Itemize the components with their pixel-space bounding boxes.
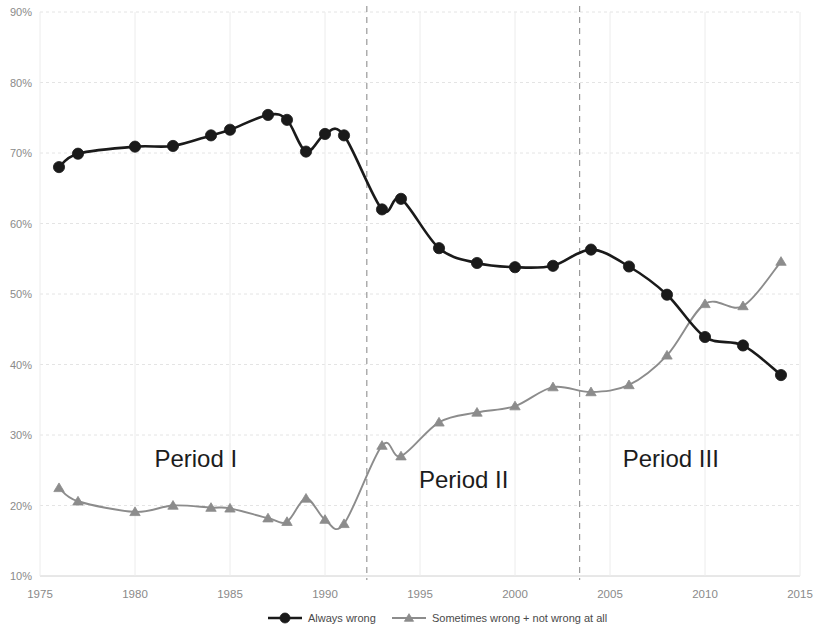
data-point-marker [376, 204, 387, 215]
y-axis-tick-label: 40% [10, 359, 32, 371]
data-point-marker [339, 519, 349, 528]
data-point-marker [700, 299, 710, 308]
period-label: Period I [154, 445, 237, 472]
line-chart: 10%20%30%40%50%60%70%80%90% 197519801985… [0, 0, 838, 630]
data-point-marker [661, 289, 672, 300]
y-axis-tick-label: 50% [10, 288, 32, 300]
data-point-marker [547, 260, 558, 271]
y-axis-tick-label: 90% [10, 6, 32, 18]
legend-label: Always wrong [308, 612, 376, 624]
data-point-marker [776, 257, 786, 266]
x-axis-tick-label: 2015 [787, 588, 813, 600]
data-point-marker [205, 130, 216, 141]
data-point-marker [434, 417, 444, 426]
y-axis-tick-label: 30% [10, 429, 32, 441]
data-point-marker [224, 124, 235, 135]
data-point-marker [775, 369, 786, 380]
data-point-marker [72, 148, 83, 159]
legend-item[interactable]: Sometimes wrong + not wrong at all [392, 612, 607, 624]
data-point-marker [509, 262, 520, 273]
y-axis-tick-label: 10% [10, 570, 32, 582]
data-point-marker [281, 114, 292, 125]
data-point-marker [54, 483, 64, 492]
data-point-marker [262, 109, 273, 120]
data-point-marker [167, 140, 178, 151]
data-point-marker [433, 243, 444, 254]
data-point-marker [737, 340, 748, 351]
data-point-marker [53, 162, 64, 173]
x-axis-tick-label: 1995 [407, 588, 433, 600]
x-axis-tick-label: 2000 [502, 588, 528, 600]
data-point-marker [319, 128, 330, 139]
data-point-marker [395, 193, 406, 204]
data-point-marker [129, 141, 140, 152]
period-dividers-group [367, 6, 580, 580]
x-axis-tick-label: 2005 [597, 588, 623, 600]
x-axis-tick-label: 1985 [217, 588, 243, 600]
data-point-marker [301, 494, 311, 503]
y-axis-tick-label: 80% [10, 77, 32, 89]
legend-group: Always wrongSometimes wrong + not wrong … [268, 612, 607, 624]
period-annotations-group: Period IPeriod IIPeriod III [154, 445, 718, 493]
y-axis-tick-label: 20% [10, 500, 32, 512]
data-point-marker [300, 146, 311, 157]
x-axis-labels-group: 197519801985199019952000200520102015 [27, 588, 813, 600]
x-axis-tick-label: 1980 [122, 588, 148, 600]
legend-label: Sometimes wrong + not wrong at all [432, 612, 607, 624]
data-point-marker [338, 130, 349, 141]
x-axis-tick-label: 2010 [692, 588, 718, 600]
period-label: Period II [419, 466, 508, 493]
data-point-marker [699, 331, 710, 342]
data-point-marker [624, 380, 634, 389]
data-point-marker [280, 613, 290, 623]
x-axis-tick-label: 1975 [27, 588, 53, 600]
chart-canvas: 10%20%30%40%50%60%70%80%90% 197519801985… [0, 0, 838, 630]
data-point-marker [623, 261, 634, 272]
y-axis-tick-label: 60% [10, 218, 32, 230]
period-label: Period III [623, 445, 719, 472]
data-point-marker [471, 257, 482, 268]
data-point-marker [585, 244, 596, 255]
legend-item[interactable]: Always wrong [268, 612, 376, 624]
y-axis-labels-group: 10%20%30%40%50%60%70%80%90% [10, 6, 32, 582]
x-axis-tick-label: 1990 [312, 588, 338, 600]
y-axis-tick-label: 70% [10, 147, 32, 159]
